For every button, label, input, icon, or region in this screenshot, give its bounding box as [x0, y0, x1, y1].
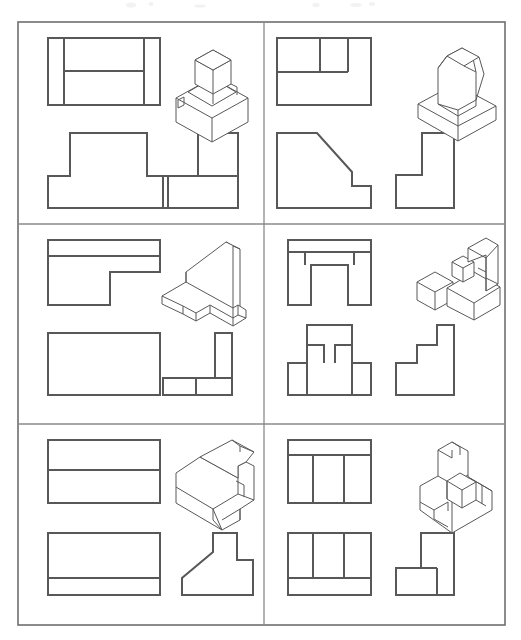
- technical-drawing-canvas: [0, 0, 521, 640]
- projection-exercise-sheet: Six multiview drawing problems with matc…: [0, 0, 521, 640]
